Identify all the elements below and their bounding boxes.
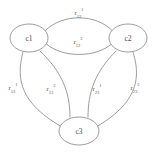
edge-label-r12-1: r121	[74, 6, 84, 18]
node-c3-label: c3	[75, 127, 82, 136]
diagram-canvas: c1 c2 c3 r121 r122 r131 r132 r231 r232	[0, 0, 157, 153]
node-c3[interactable]: c3	[59, 117, 99, 145]
edge-label-r13-1: r131	[8, 81, 18, 93]
node-c2-label: c2	[124, 34, 131, 43]
edge-label-r12-2: r122	[73, 35, 83, 47]
edge-c1-c3-r13-1[interactable]	[20, 52, 62, 127]
edge-label-r13-2: r132	[46, 82, 56, 94]
node-c1-label: c1	[25, 34, 32, 43]
concept-relation-graph: c1 c2 c3 r121 r122 r131 r132 r231 r232	[0, 0, 157, 153]
node-c1[interactable]: c1	[10, 24, 48, 52]
edge-c2-c3-r23-1[interactable]	[88, 51, 116, 117]
edge-c1-c2-r12-1[interactable]	[46, 18, 113, 31]
edge-label-r23-1: r231	[92, 82, 102, 94]
node-c2[interactable]: c2	[109, 24, 147, 52]
